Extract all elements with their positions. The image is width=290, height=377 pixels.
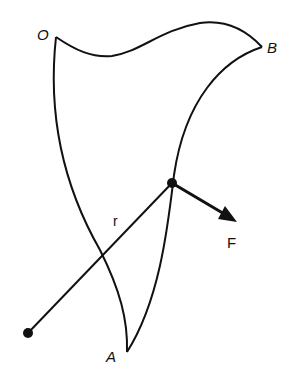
position-vector-r (28, 183, 172, 333)
label-r: r (113, 213, 118, 229)
diagram-canvas: O B A r F (0, 0, 290, 377)
label-O: O (37, 26, 49, 43)
force-arrowhead-icon (218, 206, 237, 222)
curve-B-to-A (127, 47, 262, 352)
label-A: A (105, 348, 116, 365)
force-vector-F (172, 183, 226, 215)
curve-O-to-B (56, 22, 262, 56)
label-F: F (227, 234, 236, 251)
origin-point (23, 328, 33, 338)
label-B: B (267, 39, 277, 56)
curve-O-to-A (54, 37, 127, 352)
